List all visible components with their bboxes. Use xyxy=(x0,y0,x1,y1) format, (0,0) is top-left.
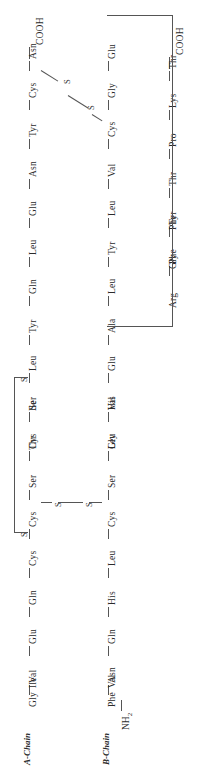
a-bond-15 xyxy=(29,568,30,578)
a-res-thr-8: Thr xyxy=(29,436,39,450)
b-bond-16 xyxy=(108,646,109,656)
disulfide-diagonal-s-left: S xyxy=(62,79,72,84)
a-bond-5 xyxy=(29,218,30,228)
b-res-ser-9: Ser xyxy=(108,475,118,488)
a-bond-11 xyxy=(29,451,30,461)
intrachain-loop-line xyxy=(14,377,15,533)
b-bond-9 xyxy=(108,373,109,383)
b-chain-label: B-Chain xyxy=(101,733,111,765)
b-res-gln-4: Gln xyxy=(108,629,118,644)
a-bond-13 xyxy=(29,490,30,500)
b-res-cys-7: Cys xyxy=(108,512,118,527)
a-chain-cooh-terminal: COOH xyxy=(36,17,46,45)
a-bond-7 xyxy=(29,296,30,306)
a-bond-1 xyxy=(29,61,30,71)
a-bond-9 xyxy=(29,373,30,383)
disulfide-horizontal-seg-2 xyxy=(58,502,83,503)
bond-phe-nh2 xyxy=(121,700,122,711)
insulin-structure-diagram: COOH Asn Cys Tyr Asn Glu Leu Gln Tyr Leu… xyxy=(0,0,200,773)
b-bond-10 xyxy=(108,412,109,422)
a-bond-8 xyxy=(29,335,30,345)
a-res-gln-15: Gln xyxy=(29,279,39,294)
b-bond-12 xyxy=(108,490,109,500)
b-res-phe-1: Phe xyxy=(108,692,118,707)
intrachain-corner-top xyxy=(14,377,20,378)
disulfide-horizontal-seg-1 xyxy=(41,502,52,503)
disulfide-diagonal-segment-b xyxy=(68,95,89,109)
intrachain-corner-bottom xyxy=(14,532,20,533)
disulfide-diagonal-segment-c xyxy=(92,114,103,121)
a-bond-16 xyxy=(29,607,30,617)
a-bond-4 xyxy=(29,179,30,189)
intrachain-stub-bottom xyxy=(20,532,28,533)
a-res-asn-21: Asn xyxy=(29,43,39,59)
a-bond-3 xyxy=(29,139,30,149)
a-res-ile-10: Ile xyxy=(29,400,39,411)
a-res-ser-9: Ser xyxy=(29,475,39,488)
b-bond-11 xyxy=(108,451,109,461)
a-bond-2 xyxy=(29,100,30,110)
a-res-cys-6: Cys xyxy=(29,551,39,566)
a-res-asn-18: Asn xyxy=(29,161,39,177)
a-res-cys-20: Cys xyxy=(29,83,39,98)
b-res-gly-8: Gly xyxy=(108,434,118,449)
disulfide-diagonal-segment-a xyxy=(41,70,58,81)
intrachain-stub-top xyxy=(20,377,28,378)
a-res-glu-4: Glu xyxy=(29,629,39,644)
a-res-ile-2: Ile xyxy=(29,677,39,688)
a-res-gln-5: Gln xyxy=(29,590,39,605)
a-bond-10 xyxy=(29,412,30,422)
a-res-tyr-19: Tyr xyxy=(29,123,39,137)
a-bond-14 xyxy=(29,529,30,539)
a-res-leu-16: Leu xyxy=(29,240,39,255)
chain-b-connector-bracket xyxy=(107,15,173,327)
b-bond-8 xyxy=(108,335,109,345)
b-bond-14 xyxy=(108,568,109,578)
a-res-tyr-14: Tyr xyxy=(29,319,39,333)
a-bond-17 xyxy=(29,646,30,656)
b-bond-15 xyxy=(108,607,109,617)
b-res-glu-13: Glu xyxy=(108,356,118,371)
b-res-his-5: His xyxy=(108,591,118,605)
b-res-leu-6: Leu xyxy=(108,551,118,566)
b-chain-nh2-terminal: NH2 xyxy=(121,713,134,730)
a-res-glu-17: Glu xyxy=(29,201,39,216)
b-bond-13 xyxy=(108,529,109,539)
a-res-gly-1: Gly xyxy=(29,692,39,707)
b-res-his-10: His xyxy=(108,396,118,410)
a-bond-6 xyxy=(29,257,30,267)
a-res-leu-13: Leu xyxy=(29,356,39,371)
b-tail-cooh-terminal: COOH xyxy=(176,27,186,55)
b-res-val-2: Val xyxy=(108,675,118,688)
disulfide-horizontal-seg-3 xyxy=(89,502,102,503)
a-res-cys-7: Cys xyxy=(29,512,39,527)
a-chain-label: A-Chain xyxy=(22,733,32,765)
